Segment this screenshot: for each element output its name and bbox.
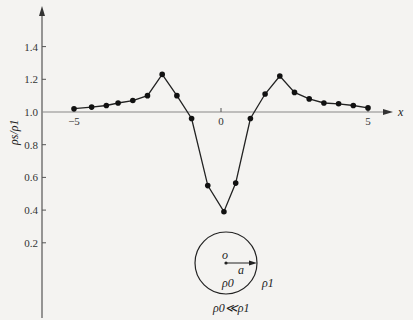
y-tick-label: 0.4 [24,204,38,216]
outside-label: ρ1 [261,276,274,290]
y-tick-label: 1.4 [24,41,38,53]
data-point [365,105,371,111]
data-point [159,72,165,78]
y-ticks: 0.20.40.60.81.01.21.4 [24,41,46,249]
data-point [71,106,77,112]
y-tick-label: 1.0 [24,106,38,118]
inset-diagram: o a ρ0 ρ1 ρ0≪ρ1 [195,232,274,315]
y-tick-label: 0.2 [24,237,38,249]
data-point [321,100,327,106]
center-label: o [222,248,228,262]
inside-label: ρ0 [221,276,234,290]
x-tick-label: 5 [365,115,371,127]
radius-label: a [238,263,244,277]
x-tick-label: −5 [68,115,80,127]
data-point [145,93,151,99]
radius-arrow-icon [249,261,257,266]
data-point [189,116,195,122]
data-point [205,183,211,189]
condition-label: ρ0≪ρ1 [212,301,250,315]
chart-svg: 0.20.40.60.81.01.21.4 −505 x ρs/ρ1 o a ρ… [0,0,413,320]
data-point [277,73,283,79]
data-point [351,103,357,109]
x-axis-label: x [397,105,404,119]
x-axis-arrow-icon [383,109,393,115]
y-axis-label: ρs/ρ1 [7,119,21,146]
y-tick-label: 0.6 [24,171,38,183]
series-line [74,74,368,211]
data-series [71,72,371,215]
data-point [248,116,254,122]
chart-figure: 0.20.40.60.81.01.21.4 −505 x ρs/ρ1 o a ρ… [0,0,413,320]
data-point [336,101,342,107]
y-tick-label: 1.2 [24,73,38,85]
data-point [306,96,312,102]
data-point [292,90,298,96]
data-point [221,209,227,215]
data-point [104,103,110,109]
data-point [233,180,239,186]
x-tick-label: 0 [218,115,224,127]
data-point [130,98,136,104]
data-point [262,91,268,97]
y-tick-label: 0.8 [24,139,38,151]
x-ticks: −505 [68,108,371,127]
data-point [174,93,180,99]
data-point [89,104,95,110]
data-point [115,100,121,106]
y-axis-arrow-icon [39,6,45,16]
